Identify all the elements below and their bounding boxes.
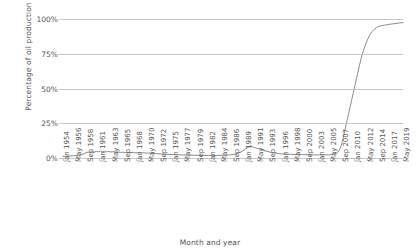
x-tick-label: May 1956 <box>75 127 83 162</box>
x-tick-label: May 1998 <box>294 127 302 162</box>
x-tick-label: Sep 1993 <box>269 129 277 162</box>
y-tick-mark <box>59 89 63 90</box>
y-gridline <box>63 54 403 55</box>
y-tick-mark <box>59 19 63 20</box>
y-axis-title: Percentage of oil production <box>24 0 33 127</box>
x-tick-label: Jan 1989 <box>245 131 253 162</box>
y-tick-label: 100% <box>37 15 58 24</box>
x-tick-label: May 1991 <box>257 127 265 162</box>
oil-production-line-chart: Percentage of oil production 0%25%50%75%… <box>0 0 420 252</box>
x-tick-label: Jan 1954 <box>63 131 71 162</box>
x-tick-label: May 1970 <box>148 127 156 162</box>
x-tick-label: Sep 1986 <box>233 129 241 162</box>
x-tick-label: Jan 1968 <box>136 131 144 162</box>
x-tick-label: Sep 2007 <box>342 129 350 162</box>
x-axis-title: Month and year <box>0 238 420 247</box>
y-tick-label: 50% <box>41 84 58 93</box>
x-tick-label: May 2019 <box>403 127 411 162</box>
x-tick-label: Jan 2003 <box>318 131 326 162</box>
x-tick-label: Sep 1958 <box>87 129 95 162</box>
x-tick-label: Jan 2010 <box>354 131 362 162</box>
y-tick-mark <box>59 54 63 55</box>
x-tick-label: Jan 1996 <box>282 131 290 162</box>
y-gridline <box>63 89 403 90</box>
x-tick-label: Sep 2000 <box>306 129 314 162</box>
x-tick-label: May 2012 <box>367 127 375 162</box>
x-tick-label: May 1984 <box>221 127 229 162</box>
y-tick-label: 75% <box>41 49 58 58</box>
x-tick-label: Sep 1979 <box>197 129 205 162</box>
x-tick-label: Jan 1982 <box>209 131 217 162</box>
x-tick-label: Jan 1961 <box>99 131 107 162</box>
y-gridline <box>63 19 403 20</box>
x-tick-label: Sep 2014 <box>379 129 387 162</box>
y-tick-label: 25% <box>41 119 58 128</box>
x-tick-label: Jan 2017 <box>391 131 399 162</box>
x-tick-label: Sep 1965 <box>124 129 132 162</box>
y-tick-mark <box>59 123 63 124</box>
x-tick-label: May 1977 <box>184 127 192 162</box>
x-tick-label: Jan 1975 <box>172 131 180 162</box>
x-axis-tick-group: Jan 1954May 1956Sep 1958Jan 1961May 1963… <box>63 158 403 224</box>
y-tick-label: 0% <box>46 154 58 163</box>
x-tick-label: Sep 1972 <box>160 129 168 162</box>
y-gridline <box>63 123 403 124</box>
x-tick-label: May 2005 <box>330 127 338 162</box>
x-tick-label: May 1963 <box>112 127 120 162</box>
